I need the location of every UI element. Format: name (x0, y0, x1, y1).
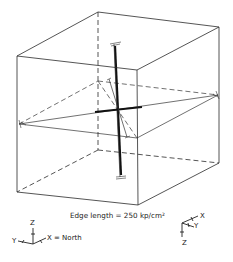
edge-length-caption: Edge length = 250 kp/cm² (70, 211, 165, 220)
right-triad-x-label: X (200, 212, 205, 220)
right-coordinate-triad: X Y Z (180, 212, 205, 247)
left-triad-x-label: X = North (47, 234, 82, 242)
right-triad-y-label: Y (193, 222, 199, 230)
left-triad-y-label: Y (11, 237, 17, 245)
left-coordinate-triad: Z Y X = North (11, 219, 82, 245)
right-triad-z-label: Z (182, 239, 187, 247)
principal-axes (95, 42, 142, 179)
left-triad-z-label: Z (30, 219, 35, 227)
stress-tensor-cube-diagram: Edge length = 250 kp/cm² Z Y X = North X… (0, 0, 233, 262)
